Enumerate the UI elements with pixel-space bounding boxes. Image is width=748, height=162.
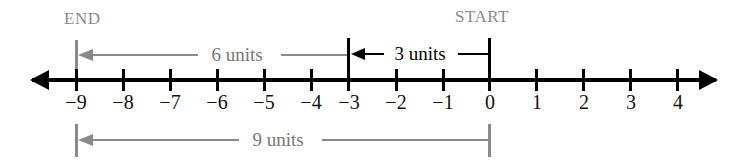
tick-label: 3 <box>608 92 654 112</box>
six-units-rule-left <box>92 54 198 56</box>
nine-units-label: 9 units <box>239 130 317 149</box>
tick-label: −8 <box>100 92 146 112</box>
tick-label: −2 <box>373 92 419 112</box>
axis-tick <box>535 69 538 91</box>
start-caption: START <box>455 8 509 25</box>
axis-tick <box>347 69 350 91</box>
tick-label: −9 <box>53 92 99 112</box>
tick-label: 1 <box>514 92 560 112</box>
three-units-arrowhead <box>351 48 365 60</box>
three-units-rule-right <box>458 53 490 55</box>
three-units-label: 3 units <box>382 44 458 63</box>
axis-tick <box>442 69 445 91</box>
axis-arrow-left-icon <box>30 70 49 90</box>
axis-tick <box>263 69 266 91</box>
axis-tick <box>169 69 172 91</box>
six-units-rule-right <box>281 54 347 56</box>
nine-units-rule-right <box>322 139 490 141</box>
axis-tick <box>488 69 491 91</box>
tick-label: 2 <box>561 92 607 112</box>
axis-tick <box>75 69 78 91</box>
tick-label: 4 <box>655 92 701 112</box>
axis-tick <box>216 69 219 91</box>
tick-label: −1 <box>420 92 466 112</box>
six-units-arrowhead <box>78 49 93 61</box>
axis-tick <box>310 69 313 91</box>
tick-label: −5 <box>241 92 287 112</box>
three-units-rule-left <box>364 53 384 55</box>
number-line-axis <box>32 78 716 82</box>
axis-tick <box>122 69 125 91</box>
three-units-left-cap <box>347 38 350 72</box>
axis-tick <box>395 69 398 91</box>
three-units-right-cap <box>488 38 491 72</box>
axis-tick <box>582 69 585 91</box>
axis-tick <box>676 69 679 91</box>
nine-units-rule-left <box>92 139 239 141</box>
number-line-diagram: END START 6 units 3 units −9 −8 −7 −6 −5… <box>0 0 748 162</box>
tick-label: −6 <box>194 92 240 112</box>
end-caption: END <box>64 10 100 27</box>
nine-units-arrowhead <box>78 134 93 146</box>
axis-arrow-right-icon <box>699 70 718 90</box>
nine-units-right-cap <box>488 124 491 157</box>
tick-label: −3 <box>326 92 372 112</box>
tick-label: −7 <box>147 92 193 112</box>
axis-tick <box>629 69 632 91</box>
tick-label: 0 <box>467 92 513 112</box>
six-units-label: 6 units <box>198 45 276 64</box>
